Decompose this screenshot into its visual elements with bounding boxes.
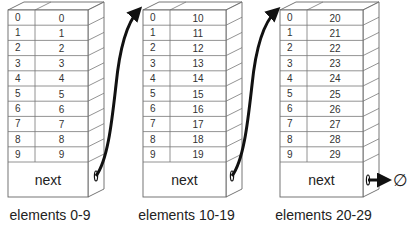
row-value: 14 <box>192 73 204 84</box>
row-index: 2 <box>15 42 21 53</box>
row-value: 21 <box>329 28 341 39</box>
null-symbol-icon: ∅ <box>393 170 408 190</box>
row-index: 9 <box>150 149 156 160</box>
row-value: 16 <box>192 104 204 115</box>
next-pointer-label: next <box>308 172 335 188</box>
row-index: 1 <box>15 27 21 38</box>
row-index: 6 <box>15 103 21 114</box>
row-value: 13 <box>192 58 204 69</box>
row-value: 4 <box>59 73 65 84</box>
row-value: 26 <box>329 104 341 115</box>
row-value: 29 <box>329 149 341 160</box>
block-caption: elements 10-19 <box>138 207 235 223</box>
row-index: 8 <box>15 134 21 145</box>
row-value: 7 <box>59 119 65 130</box>
row-index: 9 <box>15 149 21 160</box>
row-index: 2 <box>150 42 156 53</box>
row-value: 24 <box>329 73 341 84</box>
row-index: 7 <box>287 118 293 129</box>
row-value: 3 <box>59 58 65 69</box>
row-value: 11 <box>193 28 204 39</box>
row-index: 6 <box>150 103 156 114</box>
array-block: 010111212313414515616717818919nextelemen… <box>138 2 242 223</box>
row-index: 6 <box>287 103 293 114</box>
block-caption: elements 0-9 <box>10 207 91 223</box>
row-index: 3 <box>150 58 156 69</box>
row-index: 7 <box>15 118 21 129</box>
block-top-face <box>280 2 379 10</box>
row-index: 5 <box>287 88 293 99</box>
array-block: 020121222323424525626727828929nextelemen… <box>275 2 379 223</box>
row-index: 4 <box>15 73 21 84</box>
row-index: 0 <box>15 12 21 23</box>
row-value: 18 <box>192 134 204 145</box>
row-value: 22 <box>329 43 341 54</box>
row-index: 8 <box>150 134 156 145</box>
row-value: 17 <box>192 119 204 130</box>
row-index: 8 <box>287 134 293 145</box>
row-value: 25 <box>329 89 341 100</box>
row-value: 9 <box>59 149 65 160</box>
row-index: 9 <box>287 149 293 160</box>
block-side-face <box>226 2 242 197</box>
row-value: 19 <box>192 149 204 160</box>
row-value: 2 <box>59 43 65 54</box>
row-index: 0 <box>287 12 293 23</box>
row-index: 5 <box>15 88 21 99</box>
row-index: 4 <box>287 73 293 84</box>
row-index: 4 <box>150 73 156 84</box>
row-index: 7 <box>150 118 156 129</box>
row-index: 0 <box>150 12 156 23</box>
next-pointer-label: next <box>171 172 198 188</box>
row-value: 6 <box>59 104 65 115</box>
row-index: 5 <box>150 88 156 99</box>
row-value: 12 <box>192 43 204 54</box>
row-index: 3 <box>287 58 293 69</box>
array-block: 00112233445566778899nextelements 0-9 <box>8 2 104 223</box>
row-value: 20 <box>329 13 341 24</box>
row-index: 1 <box>150 27 156 38</box>
row-value: 28 <box>329 134 341 145</box>
row-index: 1 <box>287 27 293 38</box>
next-pointer-label: next <box>35 172 62 188</box>
row-value: 23 <box>329 58 341 69</box>
row-value: 0 <box>59 13 65 24</box>
block-side-face <box>363 2 379 197</box>
block-top-face <box>143 2 242 10</box>
row-value: 8 <box>59 134 65 145</box>
linked-array-diagram: 00112233445566778899nextelements 0-90101… <box>0 0 417 225</box>
row-index: 2 <box>287 42 293 53</box>
row-value: 5 <box>59 89 65 100</box>
row-value: 15 <box>192 89 204 100</box>
row-index: 3 <box>15 58 21 69</box>
row-value: 10 <box>192 13 204 24</box>
block-caption: elements 20-29 <box>275 207 372 223</box>
row-value: 27 <box>329 119 341 130</box>
row-value: 1 <box>59 28 65 39</box>
